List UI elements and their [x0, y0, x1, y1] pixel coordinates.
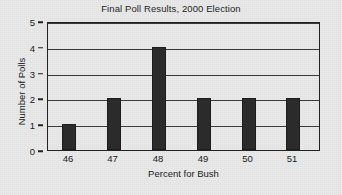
y-tick-mark [38, 150, 43, 152]
x-axis: 464748495051 [0, 153, 342, 169]
bar [62, 124, 76, 150]
x-tick-label: 50 [242, 153, 253, 164]
y-tick-mark [38, 73, 43, 75]
bar [107, 98, 121, 150]
y-tick-label: 3 [30, 68, 35, 79]
y-tick-mark [38, 99, 43, 101]
x-tick-label: 47 [107, 153, 118, 164]
x-tick-label: 51 [287, 153, 298, 164]
y-tick-mark [38, 47, 43, 49]
y-tick-label: 2 [30, 94, 35, 105]
x-tick-label: 49 [198, 153, 209, 164]
y-tick-label: 4 [30, 42, 35, 53]
bar [152, 47, 166, 150]
y-tick-label: 1 [30, 120, 35, 131]
bar [197, 98, 211, 150]
chart-figure: Final Poll Results, 2000 Election 012345… [0, 0, 342, 195]
x-tick-label: 48 [153, 153, 164, 164]
bar [242, 98, 256, 150]
y-tick-mark [38, 21, 43, 23]
y-tick-mark [38, 124, 43, 126]
chart-title: Final Poll Results, 2000 Election [0, 3, 342, 14]
bar [286, 98, 300, 150]
bar-series [48, 23, 319, 150]
plot-area [47, 22, 320, 151]
y-axis-title: Number of Polls [16, 42, 27, 142]
y-tick-label: 5 [30, 17, 35, 28]
x-axis-title: Percent for Bush [47, 168, 320, 179]
x-tick-label: 46 [63, 153, 74, 164]
